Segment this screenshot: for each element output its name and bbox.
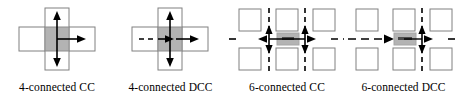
diagram-4-connected-cc <box>0 0 114 80</box>
caption-6-connected-dcc: 6-connected DCC <box>344 80 463 94</box>
grid-cell-bottom-left <box>239 48 261 70</box>
grid-cell-bottom-right <box>313 48 335 70</box>
grid-cell-top-left <box>356 9 378 31</box>
diagram-6-connected-cc <box>226 0 348 80</box>
connectivity-figure-strip: 4-connected CC <box>0 0 463 107</box>
panel-6-connected-dcc: 6-connected DCC <box>344 0 463 107</box>
grid-cell-top-center <box>393 9 415 31</box>
grid-cell-top-left <box>239 9 261 31</box>
grid-cell-top-center <box>276 9 298 31</box>
panel-6-connected-cc: 6-connected CC <box>226 0 348 107</box>
grid-cell-bottom-left <box>356 48 378 70</box>
diagram-6-connected-dcc <box>344 0 463 80</box>
grid-cell-top-right <box>313 9 335 31</box>
panel-4-connected-cc: 4-connected CC <box>0 0 114 107</box>
arrow-right-head-icon <box>424 35 433 43</box>
grid-cell-bottom-right <box>430 48 452 70</box>
diagram-4-connected-dcc <box>108 0 233 80</box>
arrow-right-head-icon <box>307 35 316 43</box>
arrow-dashed-left-icon <box>348 35 394 44</box>
caption-6-connected-cc: 6-connected CC <box>226 80 348 94</box>
caption-4-connected-cc: 4-connected CC <box>0 80 114 94</box>
grid-cell-bottom-center <box>276 48 298 70</box>
caption-4-connected-dcc: 4-connected DCC <box>108 80 233 94</box>
arrow-left-head-icon <box>258 35 267 43</box>
grid-cell-bottom-center <box>393 48 415 70</box>
panel-4-connected-dcc: 4-connected DCC <box>108 0 233 107</box>
grid-cell-top-right <box>430 9 452 31</box>
